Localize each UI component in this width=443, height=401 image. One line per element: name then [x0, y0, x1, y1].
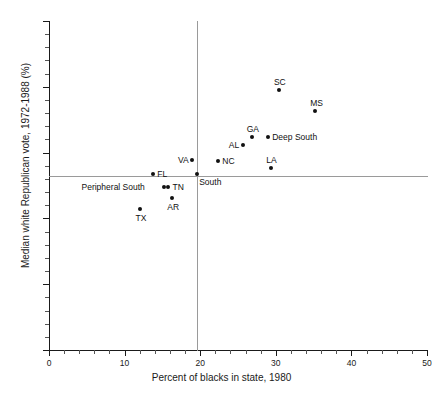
data-point-label: NC [222, 157, 234, 166]
data-point[interactable] [216, 159, 220, 163]
y-tick [45, 271, 49, 272]
data-point-label: Peripheral South [82, 183, 145, 192]
y-tick [45, 258, 49, 259]
y-tick [45, 113, 49, 114]
x-tick [155, 350, 156, 354]
data-point-label: MS [310, 99, 323, 108]
x-tick [306, 350, 307, 354]
data-point[interactable] [269, 166, 273, 170]
horizontal-reference-line [49, 176, 428, 177]
x-tick-label: 40 [339, 359, 363, 368]
x-tick-label: 10 [113, 359, 137, 368]
y-tick [45, 139, 49, 140]
x-tick [125, 350, 126, 356]
y-tick [43, 21, 49, 22]
data-point-label: South [199, 178, 221, 187]
data-point[interactable] [151, 172, 155, 176]
x-tick-label: 0 [37, 359, 61, 368]
y-tick [45, 126, 49, 127]
data-point[interactable] [250, 135, 254, 139]
data-point-label: AR [167, 203, 179, 212]
x-tick [291, 350, 292, 354]
x-tick [276, 350, 277, 356]
y-tick [45, 74, 49, 75]
y-axis-line [49, 21, 50, 351]
x-tick [351, 350, 352, 356]
y-tick [43, 284, 49, 285]
data-point[interactable] [162, 185, 166, 189]
x-tick-label: 20 [188, 359, 212, 368]
data-point[interactable] [166, 185, 170, 189]
y-tick [45, 179, 49, 180]
data-point[interactable] [266, 135, 270, 139]
x-axis-title: Percent of blacks in state, 1980 [0, 372, 443, 383]
y-tick [45, 245, 49, 246]
y-tick [45, 311, 49, 312]
x-tick [185, 350, 186, 354]
x-tick-label: 30 [264, 359, 288, 368]
y-axis-title: Median white Republican vote, 1972-1988 … [20, 36, 31, 296]
data-point[interactable] [241, 143, 245, 147]
data-point-label: Deep South [272, 133, 317, 142]
data-point-label: AL [229, 141, 239, 150]
x-tick [321, 350, 322, 354]
data-point[interactable] [170, 196, 174, 200]
y-tick [45, 100, 49, 101]
x-tick [412, 350, 413, 354]
x-tick [246, 350, 247, 354]
y-tick [45, 297, 49, 298]
y-tick [45, 205, 49, 206]
y-tick [45, 337, 49, 338]
y-tick [45, 232, 49, 233]
data-point-label: TN [172, 183, 183, 192]
data-point[interactable] [190, 158, 194, 162]
x-tick [336, 350, 337, 354]
y-tick [45, 166, 49, 167]
x-tick [200, 350, 201, 356]
data-point-label: VA [178, 156, 189, 165]
y-tick [43, 350, 49, 351]
y-tick [43, 153, 49, 154]
y-tick [43, 218, 49, 219]
plot-area: 01020304050405060708090 TXARTNFLPeripher… [49, 21, 427, 350]
vertical-reference-line [197, 21, 198, 351]
y-tick [45, 34, 49, 35]
x-tick [64, 350, 65, 354]
x-tick [367, 350, 368, 354]
x-tick [397, 350, 398, 354]
data-point-label: GA [247, 125, 259, 134]
x-tick [109, 350, 110, 354]
data-point[interactable] [195, 172, 199, 176]
data-point-label: TX [136, 214, 147, 223]
x-tick [94, 350, 95, 354]
data-point-label: FL [157, 170, 167, 179]
x-tick [261, 350, 262, 354]
y-tick [45, 324, 49, 325]
x-tick [170, 350, 171, 354]
x-tick-label: 50 [415, 359, 439, 368]
x-tick [215, 350, 216, 354]
x-axis-line [49, 350, 428, 351]
data-point-label: LA [266, 156, 276, 165]
data-point-label: SC [274, 78, 286, 87]
x-tick [230, 350, 231, 354]
x-tick [79, 350, 80, 354]
y-tick [45, 60, 49, 61]
y-tick [45, 192, 49, 193]
y-tick [45, 47, 49, 48]
scatter-chart-figure: 01020304050405060708090 TXARTNFLPeripher… [0, 0, 443, 401]
data-point[interactable] [138, 207, 142, 211]
data-point[interactable] [313, 109, 317, 113]
x-tick [49, 350, 50, 356]
y-tick [43, 87, 49, 88]
data-point[interactable] [277, 88, 281, 92]
x-tick [382, 350, 383, 354]
x-tick [427, 350, 428, 356]
x-tick [140, 350, 141, 354]
